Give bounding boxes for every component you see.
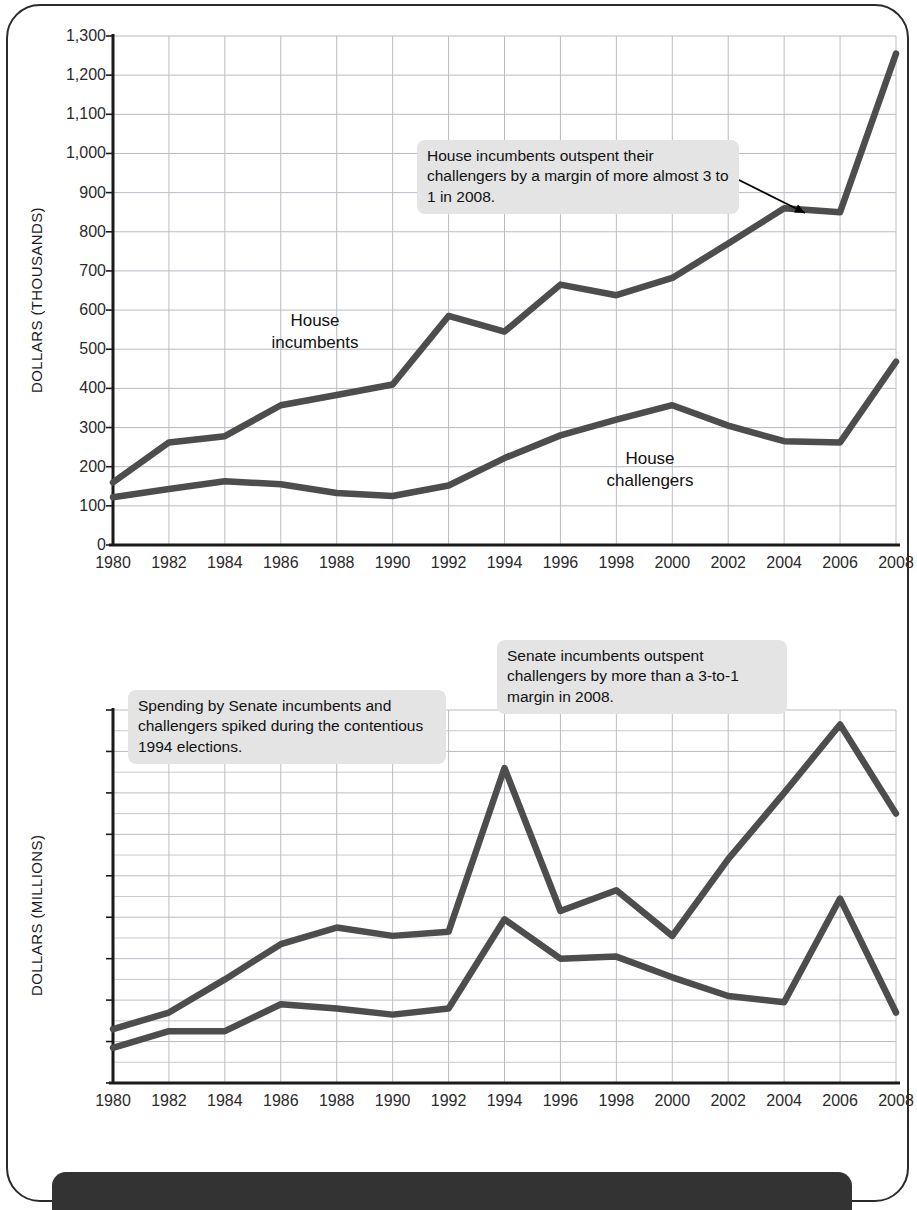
y-tick-label: 0 [97, 536, 106, 554]
senate-annotation-callout-1994: Spending by Senate incumbents and challe… [128, 690, 446, 764]
x-tick-label: 1990 [375, 554, 411, 572]
house-spending-chart: DOLLARS (THOUSANDS) 01002003004005006007… [0, 0, 917, 600]
house-y-tick-labels: 01002003004005006007008009001,0001,1001,… [46, 0, 106, 600]
y-tick-label: 600 [79, 301, 106, 319]
bottom-caption-bar [52, 1172, 852, 1210]
x-tick-label: 1998 [599, 1092, 635, 1110]
x-tick-label: 1980 [95, 1092, 131, 1110]
y-tick-label: 400 [79, 379, 106, 397]
house-annotation-callout: House incumbents outspent their challeng… [417, 140, 739, 214]
x-tick-label: 1984 [207, 554, 243, 572]
senate-y-axis-label: DOLLARS (MILLIONS) [28, 790, 45, 1040]
house-y-axis-label: DOLLARS (THOUSANDS) [28, 175, 45, 425]
y-tick-label: 700 [79, 262, 106, 280]
x-tick-label: 2000 [654, 554, 690, 572]
house-challengers-series-label: House challengers [580, 448, 720, 492]
x-tick-label: 2006 [822, 554, 858, 572]
x-tick-label: 1986 [263, 554, 299, 572]
house-incumbents-series-label: House incumbents [255, 310, 375, 354]
senate-y-tick-labels: 01.02.03.04.05.06.07.08.09.0 [46, 600, 106, 1100]
x-tick-label: 1998 [599, 554, 635, 572]
x-tick-label: 2004 [766, 1092, 802, 1110]
x-tick-label: 2008 [878, 1092, 914, 1110]
x-tick-label: 1984 [207, 1092, 243, 1110]
senate-annotation-callout-2008: Senate incumbents outspent challengers b… [497, 640, 787, 714]
x-tick-label: 1982 [151, 554, 187, 572]
y-tick-label: 100 [79, 497, 106, 515]
x-tick-label: 1988 [319, 554, 355, 572]
y-tick-label: 300 [79, 419, 106, 437]
x-tick-label: 1992 [431, 1092, 467, 1110]
x-tick-label: 2002 [710, 554, 746, 572]
x-tick-label: 2008 [878, 554, 914, 572]
y-tick-label: 1,300 [66, 27, 106, 45]
x-tick-label: 1990 [375, 1092, 411, 1110]
x-tick-label: 2004 [766, 554, 802, 572]
x-tick-label: 1988 [319, 1092, 355, 1110]
y-tick-label: 1,200 [66, 66, 106, 84]
x-tick-label: 1994 [487, 1092, 523, 1110]
house-plot-svg [0, 0, 917, 600]
x-tick-label: 1992 [431, 554, 467, 572]
x-tick-label: 1994 [487, 554, 523, 572]
y-tick-label: 1,100 [66, 105, 106, 123]
x-tick-label: 1996 [543, 1092, 579, 1110]
y-tick-label: 1,000 [66, 144, 106, 162]
x-tick-label: 1986 [263, 1092, 299, 1110]
y-tick-label: 900 [79, 184, 106, 202]
x-tick-label: 1980 [95, 554, 131, 572]
x-tick-label: 2000 [654, 1092, 690, 1110]
x-tick-label: 2002 [710, 1092, 746, 1110]
x-tick-label: 1996 [543, 554, 579, 572]
y-tick-label: 500 [79, 340, 106, 358]
y-tick-label: 800 [79, 223, 106, 241]
x-tick-label: 1982 [151, 1092, 187, 1110]
y-tick-label: 200 [79, 458, 106, 476]
x-tick-label: 2006 [822, 1092, 858, 1110]
